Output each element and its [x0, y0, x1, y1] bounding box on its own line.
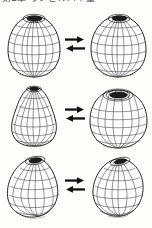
arrow-left-icon: [66, 115, 85, 122]
equilibrium-arrows: [63, 80, 87, 152]
arrow-right-icon: [65, 177, 84, 184]
figure-body: [0, 9, 152, 228]
shape-row: [0, 10, 152, 82]
equilibrium-arrows: [63, 10, 87, 82]
shape-rounded-tilted: [85, 151, 151, 223]
shape-row: [0, 151, 152, 223]
arrow-left-icon: [66, 45, 85, 52]
page-header-text: 第2章 ランビルバイ量: [2, 0, 95, 3]
arrow-right-icon: [65, 106, 84, 113]
header-strip: 第2章 ランビルバイ量: [0, 0, 152, 9]
shape-pear-dome: [1, 80, 67, 152]
shape-ellipsoid-rounded: [85, 10, 151, 82]
arrow-right-icon: [65, 36, 84, 43]
shape-ellipsoid-upright: [1, 10, 67, 82]
equilibrium-arrows: [63, 151, 87, 223]
shape-row: [0, 80, 152, 152]
arrow-left-icon: [66, 186, 85, 193]
shape-oblate-wide: [85, 80, 151, 152]
shape-egg-tilted: [1, 151, 67, 223]
